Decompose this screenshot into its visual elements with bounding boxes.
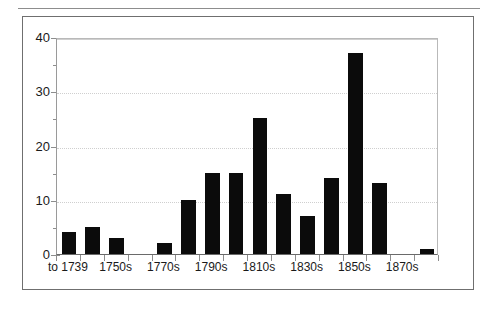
plot-area: [56, 38, 438, 255]
bar-1820s: [276, 194, 291, 254]
bar-1880s: [420, 249, 435, 254]
x-tick-label-12: 1850s: [329, 261, 379, 274]
y-tick-label-20: 20: [26, 140, 50, 153]
x-tick-label-10: 1830s: [282, 261, 332, 274]
x-tick-label-0: to 1739: [43, 261, 93, 274]
x-tick-label-2: 1750s: [91, 261, 141, 274]
x-tick-label-6: 1790s: [186, 261, 236, 274]
x-tick-label-8: 1810s: [234, 261, 284, 274]
bar-1790s: [205, 173, 220, 254]
bar-1750s: [109, 238, 124, 254]
bar-1860s: [372, 183, 387, 254]
chart-page: 010203040 to 17391750s1770s1790s1810s183…: [0, 0, 498, 310]
x-tick-label-14: 1870s: [377, 261, 427, 274]
x-tick-label-4: 1770s: [138, 261, 188, 274]
bar-1740s: [85, 227, 100, 254]
bar-to 1739: [62, 232, 77, 254]
bar-1780s: [181, 200, 196, 254]
bar-1800s: [229, 173, 244, 254]
top-divider-rule: [18, 8, 480, 9]
y-tick-label-30: 30: [26, 85, 50, 98]
y-tick-label-0: 0: [26, 248, 50, 261]
bars-layer: [57, 39, 437, 254]
bar-1770s: [157, 243, 172, 254]
bar-1840s: [324, 178, 339, 254]
bar-1810s: [253, 118, 268, 254]
y-tick-label-40: 40: [26, 31, 50, 44]
y-tick-label-10: 10: [26, 194, 50, 207]
x-tick-16: [438, 255, 439, 261]
bar-1830s: [300, 216, 315, 254]
bar-1850s: [348, 53, 363, 254]
